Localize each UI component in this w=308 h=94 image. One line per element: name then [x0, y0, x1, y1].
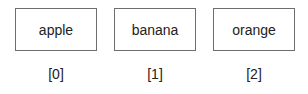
- array-index-2: [2]: [213, 66, 295, 82]
- array-cell-2: orange: [213, 8, 295, 51]
- array-cell-0: apple: [15, 8, 97, 51]
- array-index-0: [0]: [15, 66, 97, 82]
- array-cell-1: banana: [114, 8, 196, 51]
- array-index-1: [1]: [114, 66, 196, 82]
